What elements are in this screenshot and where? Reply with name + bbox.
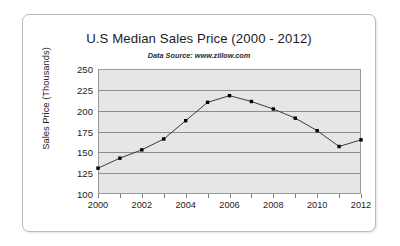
- line-series-median-sales-price: [98, 69, 361, 194]
- x-axis-tick: [120, 194, 121, 198]
- y-axis-tick-label: 250: [77, 64, 93, 75]
- x-axis-tick: [142, 194, 143, 198]
- data-point-marker: [184, 119, 187, 122]
- y-axis-tick-label: 200: [77, 105, 93, 116]
- x-axis-tick: [317, 194, 318, 198]
- data-point-marker: [272, 107, 275, 110]
- x-axis-tick: [339, 194, 340, 198]
- plot-wrapper: 250225200175150125100 200020022004200620…: [98, 69, 361, 194]
- x-axis-tick-label: 2000: [88, 200, 108, 210]
- data-point-marker: [118, 156, 121, 159]
- x-axis-tick: [273, 194, 274, 198]
- y-axis-tick-label: 100: [77, 189, 93, 200]
- x-axis-tick-label: 2012: [351, 200, 371, 210]
- x-axis-tick-label: 2004: [175, 200, 195, 210]
- data-point-marker: [294, 116, 297, 119]
- y-axis-title: Sales Price (Thousands): [40, 31, 51, 166]
- data-point-marker: [250, 100, 253, 103]
- y-axis-tick-label: 225: [77, 84, 93, 95]
- x-axis-tick: [361, 194, 362, 198]
- y-axis-tick-label: 175: [77, 126, 93, 137]
- data-point-marker: [206, 101, 209, 104]
- data-point-marker: [359, 138, 362, 141]
- x-axis-tick-label: 2008: [263, 200, 283, 210]
- data-point-marker: [228, 94, 231, 97]
- data-point-marker: [96, 166, 99, 169]
- data-point-marker: [337, 145, 340, 148]
- x-axis-tick: [230, 194, 231, 198]
- x-axis-tick: [98, 194, 99, 198]
- x-axis-tick-label: 2002: [132, 200, 152, 210]
- x-axis-tick: [251, 194, 252, 198]
- y-axis-tick-label: 125: [77, 168, 93, 179]
- x-axis-tick: [208, 194, 209, 198]
- chart-card: U.S Median Sales Price (2000 - 2012) Dat…: [22, 14, 376, 232]
- x-axis-tick-label: 2010: [307, 200, 327, 210]
- data-point-marker: [315, 129, 318, 132]
- series-line: [98, 96, 361, 168]
- x-axis-tick-label: 2006: [219, 200, 239, 210]
- chart-subtitle-data-source: Data Source: www.zillow.com: [23, 51, 375, 60]
- data-point-marker: [162, 137, 165, 140]
- x-axis-tick: [164, 194, 165, 198]
- y-axis-tick-label: 150: [77, 147, 93, 158]
- data-point-marker: [140, 148, 143, 151]
- x-axis-tick: [295, 194, 296, 198]
- x-axis-tick: [186, 194, 187, 198]
- chart-title: U.S Median Sales Price (2000 - 2012): [23, 31, 375, 46]
